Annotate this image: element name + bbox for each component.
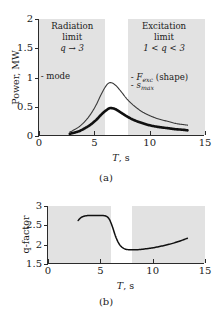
y-tick-label: 2	[27, 14, 33, 24]
plot-area-a: Radiation limit q → 3 Excitation limit 1…	[38, 19, 204, 136]
radiation-limit-line2: limit	[51, 31, 93, 42]
x-tick	[39, 131, 40, 135]
x-tick-label: 10	[146, 266, 159, 276]
x-tick-label: 5	[97, 266, 103, 276]
panel-a-power-chart: Radiation limit q → 3 Excitation limit 1…	[0, 0, 212, 185]
x-tick-label: 5	[91, 138, 97, 148]
x-tick-label: 15	[199, 266, 212, 276]
y-axis-title-b: q-factor	[20, 206, 31, 264]
radiation-limit-note: Radiation limit q → 3	[51, 20, 93, 53]
x-axis-unit-b: , s	[123, 280, 134, 291]
y-tick	[44, 206, 48, 207]
curve-q-factor	[78, 215, 187, 249]
x-tick-label: 15	[199, 138, 212, 148]
excitation-limit-line2: limit	[142, 31, 186, 42]
x-axis-unit-a: , s	[119, 152, 130, 163]
x-tick	[94, 131, 95, 135]
y-tick-label: 1	[27, 73, 33, 83]
x-tick-label: 10	[143, 138, 156, 148]
radiation-limit-line1: Radiation	[51, 20, 93, 31]
x-axis-title-a: T, s	[38, 152, 204, 163]
y-tick-label: 0	[27, 131, 33, 141]
plot-area-b: 0510151.522.53	[47, 206, 204, 264]
x-tick	[100, 259, 101, 263]
legend-mode: - mode	[41, 72, 71, 81]
y-tick	[35, 48, 39, 49]
y-tick	[35, 19, 39, 20]
excitation-limit-line3: 1 < q < 3	[142, 42, 186, 53]
x-tick	[48, 259, 49, 263]
caption-a: (a)	[0, 172, 212, 183]
caption-b: (b)	[0, 296, 212, 307]
y-tick	[35, 136, 39, 137]
curve-f-exc-shape	[70, 83, 188, 132]
y-tick	[35, 107, 39, 108]
excitation-limit-note: Excitation limit 1 < q < 3	[142, 20, 186, 53]
radiation-limit-line3: q → 3	[51, 42, 93, 53]
y-tick	[35, 78, 39, 79]
y-tick	[44, 225, 48, 226]
y-axis-title-a: Power, MW	[10, 19, 21, 136]
legend-s-max-subscript: max	[141, 84, 154, 91]
x-tick	[153, 259, 154, 263]
excitation-limit-line1: Excitation	[142, 20, 186, 31]
legend-s-max: - smax	[131, 81, 154, 92]
x-tick	[205, 131, 206, 135]
x-tick	[150, 131, 151, 135]
qfactor-curve	[48, 206, 204, 263]
x-tick-label: 0	[36, 138, 42, 148]
y-tick	[44, 245, 48, 246]
y-tick	[44, 264, 48, 265]
curve-s-max	[70, 108, 188, 134]
y-tick-label: 3	[36, 201, 42, 211]
x-tick-label: 0	[45, 266, 51, 276]
x-tick	[205, 259, 206, 263]
figure-container: Radiation limit q → 3 Excitation limit 1…	[0, 0, 212, 317]
legend-f-exc-tail: (shape)	[153, 71, 188, 81]
x-axis-title-b: T, s	[47, 280, 204, 291]
y-tick-label: 2	[36, 240, 42, 250]
